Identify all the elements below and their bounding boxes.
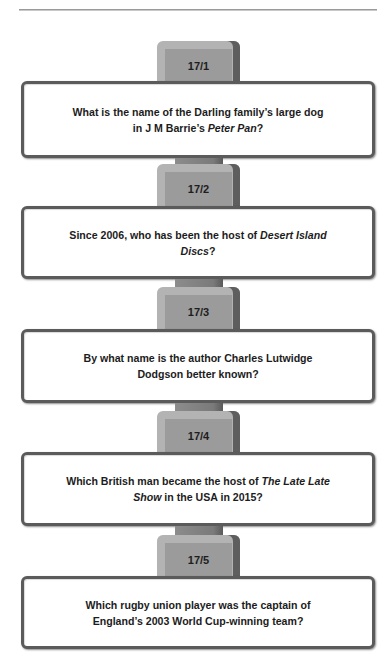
question-title-italic: Peter Pan — [208, 122, 257, 134]
question-number: 17/5 — [165, 543, 232, 579]
question-number: 17/4 — [165, 419, 232, 455]
question-card: Which British man became the host of The… — [21, 452, 375, 526]
question-card: Since 2006, who has been the host of Des… — [21, 206, 375, 279]
question-line: Which British man became the host of The… — [66, 473, 330, 489]
question-number-tab: 17/5 — [157, 535, 240, 579]
question-line: Since 2006, who has been the host of Des… — [69, 227, 326, 243]
question-text: Which British man became the host of — [66, 475, 261, 487]
question-text: England’s 2003 World Cup-winning team? — [93, 615, 304, 627]
question-title-italic: Discs — [181, 245, 209, 257]
question-number-tab: 17/4 — [157, 411, 240, 455]
question-line: Show in the USA in 2015? — [133, 489, 263, 505]
question-title-italic: The Late Late — [262, 475, 330, 487]
question-card: Which rugby union player was the captain… — [21, 576, 375, 649]
question-number: 17/2 — [165, 172, 232, 208]
question-card: What is the name of the Darling family’s… — [21, 81, 375, 158]
question-number-tab: 17/2 — [157, 164, 240, 208]
question-text: ? — [209, 245, 215, 257]
question-line: Dodgson better known? — [137, 366, 258, 382]
question-text: Which rugby union player was the captain… — [86, 599, 311, 611]
question-text: What is the name of the Darling family’s… — [73, 106, 324, 118]
question-number: 17/3 — [165, 295, 232, 331]
question-text: ? — [257, 122, 263, 134]
question-text: By what name is the author Charles Lutwi… — [84, 352, 313, 364]
question-line: in J M Barrie’s Peter Pan? — [133, 120, 263, 136]
question-line: By what name is the author Charles Lutwi… — [84, 350, 313, 366]
top-divider — [19, 9, 377, 11]
question-line: Which rugby union player was the captain… — [86, 597, 311, 613]
question-line: England’s 2003 World Cup-winning team? — [93, 613, 304, 629]
question-title-italic: Show — [133, 491, 161, 503]
question-text: Since 2006, who has been the host of — [69, 229, 260, 241]
question-number-tab: 17/3 — [157, 287, 240, 331]
question-title-italic: Desert Island — [260, 229, 327, 241]
question-line: Discs? — [181, 243, 216, 259]
question-text: in J M Barrie’s — [133, 122, 208, 134]
question-number: 17/1 — [165, 49, 232, 85]
question-text: Dodgson better known? — [137, 368, 258, 380]
question-text: in the USA in 2015? — [161, 491, 262, 503]
question-card: By what name is the author Charles Lutwi… — [21, 329, 375, 403]
question-number-tab: 17/1 — [157, 41, 240, 85]
question-line: What is the name of the Darling family’s… — [73, 104, 324, 120]
